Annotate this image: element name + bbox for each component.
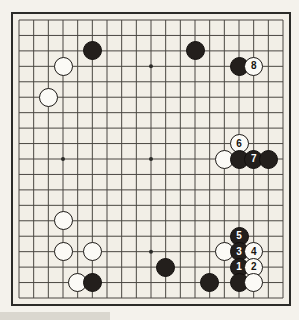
stone-w-lower-left-2[interactable] xyxy=(54,242,73,261)
go-board[interactable]: 86753412 xyxy=(11,12,291,306)
move-number-label: 7 xyxy=(251,154,257,164)
stone-b-top-center[interactable] xyxy=(186,41,205,60)
stone-w-upper-left-1[interactable] xyxy=(54,57,73,76)
diagram-page: 86753412 xyxy=(0,0,299,320)
stone-w-move-8[interactable]: 8 xyxy=(244,57,263,76)
stone-w-lower-left-3[interactable] xyxy=(83,242,102,261)
move-number-label: 1 xyxy=(236,262,242,272)
move-number-label: 2 xyxy=(251,262,257,272)
move-number-label: 6 xyxy=(236,138,242,148)
stone-w-lower-left-1[interactable] xyxy=(54,211,73,230)
page-footer-strip xyxy=(0,312,110,320)
stone-b-bottom-center[interactable] xyxy=(156,258,175,277)
stone-b-right-2[interactable] xyxy=(259,150,278,169)
stone-w-upper-left-2[interactable] xyxy=(39,88,58,107)
move-number-label: 5 xyxy=(236,231,242,241)
stone-b-lower-left[interactable] xyxy=(83,273,102,292)
move-number-label: 4 xyxy=(251,246,257,256)
move-number-label: 8 xyxy=(251,61,257,71)
move-number-label: 3 xyxy=(236,246,242,256)
